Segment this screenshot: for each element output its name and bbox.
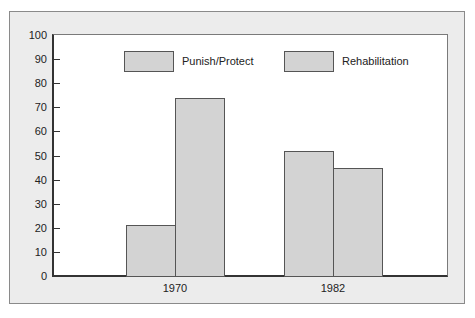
- y-tick: [52, 156, 60, 157]
- y-tick: [52, 228, 60, 229]
- y-tick-label: 30: [9, 198, 47, 210]
- y-tick-label: 70: [9, 101, 47, 113]
- y-tick-label: 80: [9, 77, 47, 89]
- y-tick-label: 10: [9, 246, 47, 258]
- y-tick-label: 60: [9, 125, 47, 137]
- y-tick: [52, 107, 60, 108]
- y-tick: [52, 252, 60, 253]
- y-tick-label: 50: [9, 150, 47, 162]
- y-tick-label: 0: [9, 270, 47, 282]
- y-tick: [52, 180, 60, 181]
- x-tick-label: 1982: [303, 282, 363, 294]
- y-tick-label: 100: [9, 29, 47, 41]
- legend-swatch-rehabilitation: [284, 51, 334, 72]
- legend-label-rehabilitation: Rehabilitation: [342, 51, 409, 72]
- y-tick-label: 20: [9, 222, 47, 234]
- bar-rehabilitation-1982: [333, 168, 383, 277]
- y-tick-label: 40: [9, 174, 47, 186]
- x-tick-label: 1970: [145, 282, 205, 294]
- bar-rehabilitation-1970: [175, 98, 225, 277]
- y-tick: [52, 83, 60, 84]
- y-tick: [52, 204, 60, 205]
- bar-punish-protect-1970: [126, 225, 176, 277]
- y-tick-label: 90: [9, 53, 47, 65]
- legend-swatch-punish-protect: [124, 51, 174, 72]
- legend-label-punish-protect: Punish/Protect: [182, 51, 254, 72]
- y-tick: [52, 131, 60, 132]
- y-tick: [52, 59, 60, 60]
- bar-punish-protect-1982: [284, 151, 334, 277]
